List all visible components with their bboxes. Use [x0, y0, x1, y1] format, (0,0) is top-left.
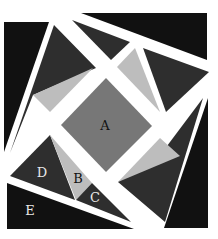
- label-c: C: [90, 190, 100, 205]
- label-d: D: [37, 165, 47, 180]
- label-b: B: [73, 171, 83, 186]
- puzzle-diagram: ABCDE: [0, 0, 218, 239]
- label-e: E: [25, 203, 35, 218]
- label-a: A: [99, 118, 110, 133]
